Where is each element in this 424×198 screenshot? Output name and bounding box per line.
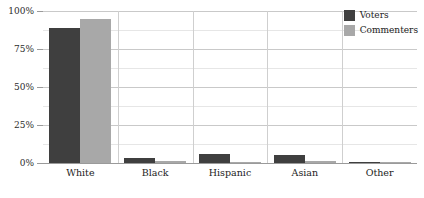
legend-item-voters[interactable]: Voters <box>344 10 418 21</box>
bar-white-voters[interactable] <box>49 28 80 163</box>
x-axis-tick-label-hispanic: Hispanic <box>209 168 251 178</box>
legend-label: Commenters <box>360 26 418 35</box>
x-axis-tick-label-asian: Asian <box>292 168 319 178</box>
x-axis-tick-label-other: Other <box>366 168 394 178</box>
y-axis-tick-label: 25% <box>14 121 34 130</box>
bar-group <box>118 11 193 163</box>
bar-hispanic-voters[interactable] <box>199 154 230 163</box>
bar-other-commenters[interactable] <box>380 162 411 163</box>
bar-chart: 0%25%50%75%100% WhiteBlackHispanicAsianO… <box>0 0 424 198</box>
axis-baseline <box>43 163 417 164</box>
y-axis-tick-label: 100% <box>8 7 34 16</box>
bar-black-commenters[interactable] <box>155 161 186 163</box>
x-axis: WhiteBlackHispanicAsianOther <box>43 168 417 190</box>
bar-asian-commenters[interactable] <box>305 161 336 163</box>
legend-label: Voters <box>360 11 389 20</box>
bar-hispanic-commenters[interactable] <box>230 162 261 163</box>
x-axis-tick-label-black: Black <box>142 168 169 178</box>
y-axis: 0%25%50%75%100% <box>0 0 43 198</box>
chart-legend: VotersCommenters <box>344 10 418 36</box>
bar-white-commenters[interactable] <box>80 19 111 163</box>
y-axis-tick-label: 50% <box>14 83 34 92</box>
y-axis-tick-label: 0% <box>20 159 34 168</box>
bar-group <box>43 11 118 163</box>
bar-asian-voters[interactable] <box>274 155 305 163</box>
bar-other-voters[interactable] <box>349 162 380 163</box>
legend-item-commenters[interactable]: Commenters <box>344 25 418 36</box>
bar-group <box>267 11 342 163</box>
x-axis-tick-label-white: White <box>66 168 94 178</box>
legend-swatch-icon <box>344 10 355 21</box>
bar-group <box>193 11 268 163</box>
legend-swatch-icon <box>344 25 355 36</box>
y-axis-tick-label: 75% <box>14 45 34 54</box>
bar-black-voters[interactable] <box>124 158 155 163</box>
